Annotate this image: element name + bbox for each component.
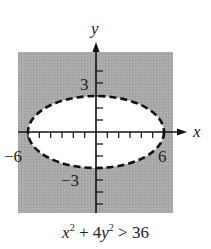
caption-plus-term: + 4 <box>75 223 102 242</box>
x-tick-label-neg6: −6 <box>4 147 22 166</box>
caption-y-var: y <box>101 223 109 242</box>
x-axis-arrow-icon <box>177 129 187 136</box>
y-axis-arrow-icon <box>93 42 100 52</box>
x-axis-label: x <box>192 122 201 141</box>
x-tick-label-6: 6 <box>158 147 167 166</box>
y-tick-label-neg3: −3 <box>61 171 79 190</box>
region-graph: 3 −3 −6 6 x y <box>0 0 211 249</box>
y-axis-label: y <box>89 19 99 38</box>
caption-rhs: > 36 <box>114 223 149 242</box>
y-tick-label-3: 3 <box>80 75 89 94</box>
inequality-caption: x2 + 4y2 > 36 <box>0 222 211 243</box>
caption-x-var: x <box>62 223 70 242</box>
